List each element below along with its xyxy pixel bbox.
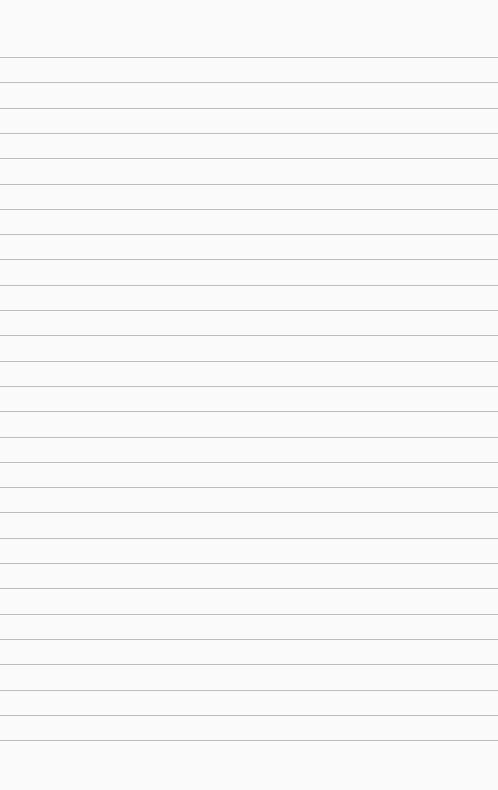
ruled-line xyxy=(0,234,498,235)
ruled-line xyxy=(0,690,498,691)
ruled-line xyxy=(0,639,498,640)
lined-paper xyxy=(0,0,498,790)
ruled-line xyxy=(0,108,498,109)
ruled-line xyxy=(0,133,498,134)
ruled-line xyxy=(0,335,498,336)
ruled-line xyxy=(0,563,498,564)
ruled-line xyxy=(0,158,498,159)
ruled-line xyxy=(0,538,498,539)
ruled-line xyxy=(0,715,498,716)
ruled-line xyxy=(0,82,498,83)
ruled-line xyxy=(0,361,498,362)
ruled-line xyxy=(0,57,498,58)
ruled-line xyxy=(0,588,498,589)
ruled-line xyxy=(0,209,498,210)
ruled-line xyxy=(0,259,498,260)
ruled-line xyxy=(0,184,498,185)
ruled-line xyxy=(0,740,498,741)
ruled-line xyxy=(0,487,498,488)
ruled-line xyxy=(0,512,498,513)
ruled-line xyxy=(0,437,498,438)
ruled-line xyxy=(0,664,498,665)
ruled-line xyxy=(0,411,498,412)
ruled-line xyxy=(0,285,498,286)
ruled-line xyxy=(0,310,498,311)
ruled-line xyxy=(0,386,498,387)
ruled-line xyxy=(0,462,498,463)
ruled-line xyxy=(0,614,498,615)
